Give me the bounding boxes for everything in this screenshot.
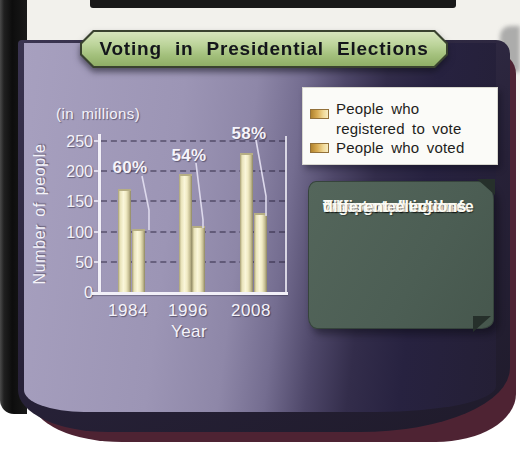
y-tick-label-150: 150 <box>46 193 93 209</box>
percent-label-1984: 60% <box>105 158 155 178</box>
bar-voted-1984 <box>132 229 145 293</box>
y-tick-label-50: 50 <box>46 254 93 270</box>
x-axis-line <box>92 292 288 295</box>
page-title: Voting in Presidential Elections <box>80 30 448 68</box>
title-banner: Voting in Presidential Elections <box>80 30 448 68</box>
x-tick-label-1996: 1996 <box>158 301 218 321</box>
y-axis-line <box>98 134 101 293</box>
y-tick-label-200: 200 <box>46 163 93 179</box>
callout-text: This graph shows the percentage of regis… <box>309 182 493 193</box>
units-label: (in millions) <box>56 105 140 122</box>
percent-label-2008: 58% <box>224 124 274 144</box>
y-tick-label-0: 0 <box>46 284 93 300</box>
legend-swatch-voted <box>310 143 329 153</box>
page: Voting in Presidential Elections (in mil… <box>0 0 520 449</box>
bar-registered-2008 <box>240 153 253 293</box>
bar-voted-2008 <box>254 213 267 293</box>
y-tick-label-100: 100 <box>46 224 93 240</box>
legend-label-registered-line2: registered to vote <box>336 120 462 137</box>
bar-voted-1996 <box>192 226 205 293</box>
y-axis-title: Number of people <box>31 134 51 294</box>
x-tick-label-2008: 2008 <box>221 301 281 321</box>
top-border-bar <box>90 0 456 8</box>
legend-swatch-registered <box>310 109 329 119</box>
legend-box: People who registered to vote People who… <box>302 87 498 165</box>
y-tick-label-250: 250 <box>46 133 93 149</box>
callout-note: This graph shows the percentage of regis… <box>308 181 494 329</box>
legend-label-registered-line1: People who <box>336 100 419 117</box>
percent-label-1996: 54% <box>164 146 214 166</box>
legend-label-voted: People who voted <box>336 139 464 156</box>
bar-registered-1984 <box>118 189 131 293</box>
callout-line: different elections. <box>323 193 471 221</box>
bar-registered-1996 <box>179 174 192 293</box>
x-axis-title: Year <box>159 322 219 342</box>
x-tick-label-1984: 1984 <box>98 301 158 321</box>
plot-right-border <box>285 136 287 293</box>
